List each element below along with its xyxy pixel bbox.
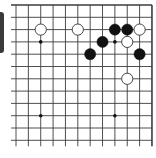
star-point-icon (39, 40, 43, 44)
star-point-icon (39, 114, 43, 118)
black-stone-icon[interactable] (134, 49, 145, 60)
star-point-icon (113, 114, 117, 118)
black-stone-icon[interactable] (97, 36, 108, 47)
white-stone-icon[interactable] (122, 36, 133, 47)
black-stone-icon[interactable] (122, 24, 133, 35)
white-stone-icon[interactable] (35, 24, 46, 35)
star-point-icon (113, 40, 117, 44)
go-board[interactable] (0, 0, 156, 158)
white-stone-icon[interactable] (122, 73, 133, 84)
black-stone-icon[interactable] (85, 49, 96, 60)
white-stone-icon[interactable] (134, 24, 145, 35)
white-stone-icon[interactable] (72, 24, 83, 35)
black-stone-icon[interactable] (109, 24, 120, 35)
